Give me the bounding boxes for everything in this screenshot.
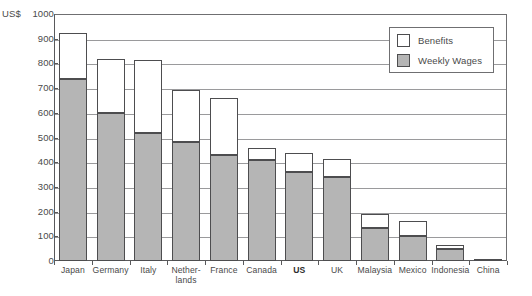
- bar-segment-benefits: [361, 214, 389, 227]
- x-axis-tick-mark: [54, 261, 55, 265]
- bar-segment-weekly-wages: [323, 177, 351, 261]
- bar-segment-weekly-wages: [399, 236, 427, 261]
- y-axis-tick-label: 0: [8, 256, 54, 266]
- legend-item-benefits: Benefits: [397, 34, 453, 47]
- bar: [285, 154, 313, 261]
- bar: [323, 160, 351, 261]
- legend-swatch-weekly-wages-icon: [397, 54, 410, 67]
- bar-segment-weekly-wages: [172, 142, 200, 261]
- bar-segment-benefits: [59, 33, 87, 80]
- bar-segment-weekly-wages: [436, 249, 464, 261]
- bar-segment-benefits: [285, 153, 313, 173]
- y-axis-tick-label: 400: [8, 157, 54, 167]
- bar-segment-weekly-wages: [474, 259, 502, 261]
- bar: [59, 34, 87, 261]
- bar: [474, 259, 502, 261]
- bar-segment-benefits: [323, 159, 351, 177]
- x-axis-tick-mark: [205, 261, 206, 265]
- bar-segment-benefits: [210, 98, 238, 155]
- x-axis-tick-mark: [243, 261, 244, 265]
- x-axis-tick-mark: [318, 261, 319, 265]
- bar-segment-weekly-wages: [210, 155, 238, 261]
- bar-segment-weekly-wages: [59, 79, 87, 261]
- bar: [399, 221, 427, 261]
- bar-segment-benefits: [172, 90, 200, 143]
- chart-title: [96, 0, 426, 3]
- bar: [248, 149, 276, 261]
- y-axis-tick-label: 200: [8, 207, 54, 217]
- bar: [97, 60, 125, 261]
- legend-swatch-benefits-icon: [397, 34, 410, 47]
- bar-segment-benefits: [134, 60, 162, 133]
- legend-label-benefits: Benefits: [418, 35, 453, 46]
- bar-segment-benefits: [97, 59, 125, 113]
- y-axis-tick-label: 800: [8, 58, 54, 68]
- bar-segment-benefits: [248, 148, 276, 160]
- legend-label-weekly-wages: Weekly Wages: [418, 55, 482, 66]
- chart-container: US$ 10009008007006005004003002001000 Jap…: [0, 0, 532, 296]
- bar-segment-weekly-wages: [361, 228, 389, 261]
- y-axis-tick-label: 600: [8, 108, 54, 118]
- y-axis-tick-label: 1000: [8, 9, 54, 19]
- legend-item-weekly-wages: Weekly Wages: [397, 54, 482, 67]
- x-axis-label-china: China: [465, 266, 511, 276]
- y-axis-tick-label: 900: [8, 34, 54, 44]
- x-axis-tick-mark: [356, 261, 357, 265]
- bar-segment-weekly-wages: [97, 113, 125, 261]
- bar: [210, 99, 238, 261]
- y-axis-tick-label: 500: [8, 133, 54, 143]
- bar-segment-weekly-wages: [285, 172, 313, 261]
- bar: [172, 91, 200, 261]
- y-axis-tick-label: 100: [8, 231, 54, 241]
- y-axis-tick-label: 700: [8, 83, 54, 93]
- bar: [361, 215, 389, 261]
- y-axis-tick-label: 300: [8, 182, 54, 192]
- bar-segment-weekly-wages: [134, 133, 162, 261]
- y-axis: 10009008007006005004003002001000: [0, 0, 54, 296]
- x-axis-tick-mark: [394, 261, 395, 265]
- bar: [436, 246, 464, 261]
- bar-segment-benefits: [399, 221, 427, 237]
- source-note-container: Source: US Department of Labor figures: [508, 148, 530, 278]
- bar-segment-weekly-wages: [248, 160, 276, 261]
- x-axis-tick-mark: [469, 261, 470, 265]
- chart-legend: Benefits Weekly Wages: [389, 27, 494, 73]
- x-axis-tick-mark: [130, 261, 131, 265]
- bar: [134, 61, 162, 261]
- x-axis-tick-mark: [281, 261, 282, 265]
- x-axis-tick-mark: [167, 261, 168, 265]
